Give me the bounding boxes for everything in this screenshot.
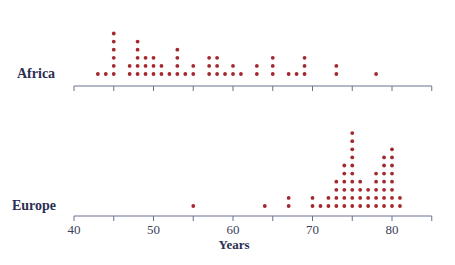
data-dot [128,72,132,76]
data-dot [374,172,378,176]
data-dot [231,72,235,76]
data-dot [350,147,354,151]
data-dot [303,56,307,60]
data-dot [136,40,140,44]
data-dot [390,147,394,151]
data-dot [350,180,354,184]
data-dot [255,64,259,68]
data-dot [342,180,346,184]
data-dot [191,72,195,76]
data-dot [382,180,386,184]
data-dot [144,56,148,60]
data-dot [207,64,211,68]
data-dot [311,196,315,200]
data-dot [231,64,235,68]
data-dot [263,204,267,208]
data-dot [160,64,164,68]
data-dot [398,196,402,200]
data-dot [334,72,338,76]
data-dot [295,72,299,76]
data-dot [215,56,219,60]
data-dot [168,72,172,76]
data-dot [390,172,394,176]
data-dot [358,204,362,208]
data-dot [382,164,386,168]
data-dot [152,64,156,68]
africa-axis [74,86,432,91]
data-dot [319,204,323,208]
data-dot [366,188,370,192]
data-dot [342,188,346,192]
data-dot [136,48,140,52]
data-dot [152,72,156,76]
data-dot [350,172,354,176]
data-dot [350,156,354,160]
data-dot [350,188,354,192]
data-dot [191,64,195,68]
data-dot [271,64,275,68]
data-dot [175,64,179,68]
data-dot [350,139,354,143]
x-tick-label: 80 [386,222,399,237]
europe-dots [191,131,402,208]
data-dot [390,164,394,168]
data-dot [144,72,148,76]
data-dot [303,64,307,68]
data-dot [175,72,179,76]
data-dot [334,64,338,68]
data-dot [136,72,140,76]
data-dot [96,72,100,76]
data-dot [382,204,386,208]
data-dot [342,196,346,200]
data-dot [342,164,346,168]
data-dot [374,204,378,208]
data-dot [239,72,243,76]
data-dot [183,72,187,76]
data-dot [271,72,275,76]
data-dot [334,204,338,208]
data-dot [112,32,116,36]
x-tick-label: 70 [306,222,319,237]
data-dot [223,72,227,76]
x-tick-label: 40 [68,222,81,237]
data-dot [374,196,378,200]
group-label-europe: Europe [12,198,56,213]
data-dot [350,131,354,135]
data-dot [374,188,378,192]
data-dot [311,204,315,208]
data-dot [334,180,338,184]
x-tick-label: 60 [227,222,240,237]
data-dot [327,204,331,208]
data-dot [342,204,346,208]
data-dot [358,196,362,200]
data-dot [342,172,346,176]
x-axis-title: Years [218,237,249,252]
data-dot [191,204,195,208]
data-dot [398,204,402,208]
data-dot [160,72,164,76]
data-dot [334,188,338,192]
data-dot [112,48,116,52]
data-dot [255,72,259,76]
data-dot [128,64,132,68]
data-dot [215,64,219,68]
europe-axis [74,216,432,221]
data-dot [390,188,394,192]
data-dot [390,180,394,184]
data-dot [382,156,386,160]
data-dot [175,48,179,52]
data-dot [287,196,291,200]
data-dot [215,72,219,76]
data-dot [287,72,291,76]
data-dot [334,196,338,200]
data-dot [303,72,307,76]
data-dot [390,196,394,200]
data-dot [144,64,148,68]
data-dot [382,188,386,192]
x-tick-labels: 4050607080 [68,222,399,237]
data-dot [207,72,211,76]
x-tick-label: 50 [147,222,160,237]
data-dot [136,56,140,60]
data-dot [366,204,370,208]
data-dot [104,72,108,76]
